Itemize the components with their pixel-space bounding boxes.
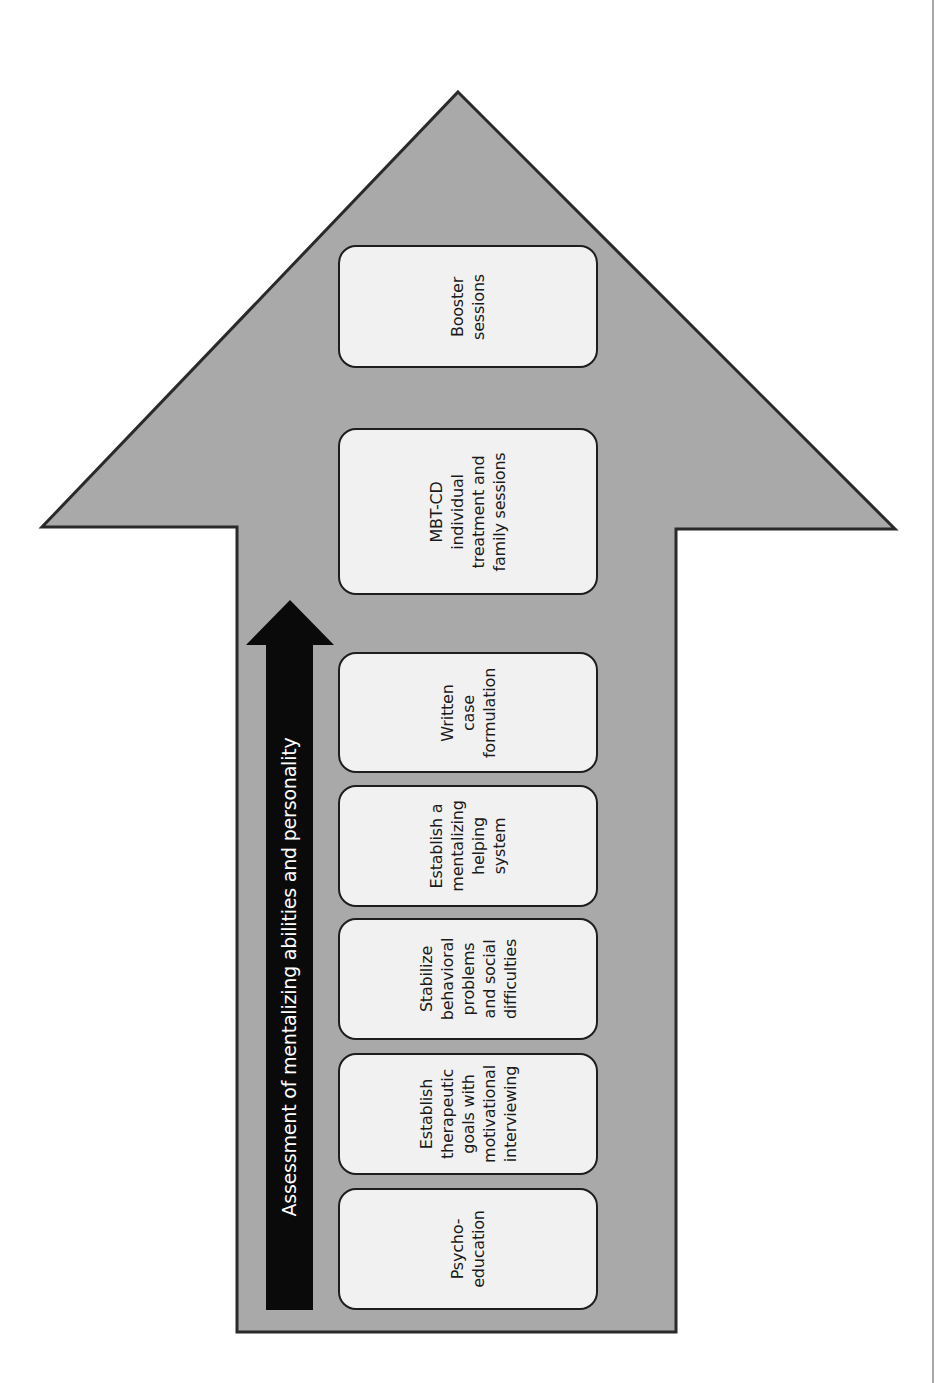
- step-label: Establish a mentalizing helping system: [426, 800, 510, 891]
- diagram-canvas: Assessment of mentalizing abilities and …: [0, 0, 939, 1383]
- step-box-helping-system: Establish a mentalizing helping system: [338, 785, 598, 907]
- step-box-case-formulation: Written case formulation: [338, 652, 598, 773]
- step-box-psychoeducation: Psycho- education: [338, 1188, 598, 1310]
- step-label: Written case formulation: [437, 667, 500, 757]
- step-label: Psycho- education: [447, 1210, 489, 1288]
- step-label: Stabilize behavioral problems and social…: [416, 938, 521, 1020]
- step-label: Establish therapeutic goals with motivat…: [416, 1065, 521, 1163]
- step-box-therapeutic-goals: Establish therapeutic goals with motivat…: [338, 1053, 598, 1175]
- page-border-line: [932, 0, 934, 1383]
- step-label: MBT-CD individual treatment and family s…: [426, 452, 510, 571]
- step-box-mbt-cd-sessions: MBT-CD individual treatment and family s…: [338, 428, 598, 595]
- assessment-label: Assessment of mentalizing abilities and …: [278, 737, 300, 1216]
- step-label: Booster sessions: [447, 274, 489, 340]
- step-box-stabilize: Stabilize behavioral problems and social…: [338, 918, 598, 1040]
- step-box-booster-sessions: Booster sessions: [338, 245, 598, 368]
